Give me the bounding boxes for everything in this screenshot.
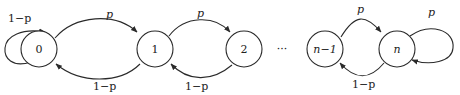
ellipsis: ··· xyxy=(277,43,288,56)
node-label-n-minus-1: n−1 xyxy=(313,43,336,56)
edge-nm1-n xyxy=(341,19,381,37)
edge-label-2-1: 1−p xyxy=(185,80,208,93)
node-0: 0 xyxy=(21,31,57,67)
node-n: n xyxy=(379,31,415,67)
edge-n-n xyxy=(410,29,453,63)
node-n-minus-1: n−1 xyxy=(307,31,343,67)
edge-label-0-0: 1−p xyxy=(8,12,31,25)
edge-label-1-0: 1−p xyxy=(93,80,116,93)
node-label-1: 1 xyxy=(152,43,159,56)
node-1: 1 xyxy=(137,31,173,67)
edge-label-1-2: p xyxy=(197,7,204,20)
edge-0-1 xyxy=(55,19,137,38)
node-label-2: 2 xyxy=(241,43,248,56)
edge-label-0-1: p xyxy=(106,8,113,21)
edge-label-n-nm1: 1−p xyxy=(352,78,375,91)
edge-label-nm1-n: p xyxy=(357,3,364,16)
edge-label-n-n: p xyxy=(428,6,435,19)
edge-1-2 xyxy=(169,20,230,36)
markov-chain-diagram: 1−p p 1−p p 1−p p 1−p p 0 1 2 ··· n−1 n xyxy=(0,0,460,95)
edge-n-nm1 xyxy=(340,63,384,76)
edge-2-1 xyxy=(171,64,232,78)
node-label-0: 0 xyxy=(36,43,43,56)
node-2: 2 xyxy=(226,31,262,67)
node-label-n: n xyxy=(393,43,400,56)
edge-1-0 xyxy=(56,64,140,79)
